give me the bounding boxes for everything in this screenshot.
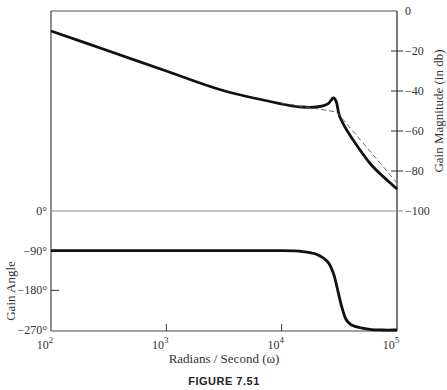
- magnitude-tick-label: −40: [405, 84, 424, 98]
- figure-caption: FIGURE 7.51: [188, 375, 260, 387]
- x-tick-label: 105: [383, 335, 400, 352]
- magnitude-tick-label: −60: [405, 124, 424, 138]
- x-tick-exponent: 4: [279, 335, 284, 345]
- magnitude-tick-label: 0: [405, 4, 411, 18]
- magnitude-tick-label: −80: [405, 164, 424, 178]
- x-tick-exponent: 3: [164, 335, 169, 345]
- tick-labels: 0−20−40−60−80−1000°−90°−180°−270°1021031…: [17, 4, 429, 352]
- tick-marks: [51, 51, 403, 331]
- phase-curve: [51, 251, 397, 330]
- magnitude-asymptote-line: [282, 103, 397, 183]
- x-tick-label: 103: [152, 335, 169, 352]
- y-axis-label-phase: Gain Angle: [3, 261, 18, 321]
- magnitude-tick-label: −20: [405, 44, 424, 58]
- x-tick-label: 102: [37, 335, 54, 352]
- phase-tick-label: −270°: [17, 323, 47, 337]
- phase-tick-label: −90°: [23, 244, 47, 258]
- x-tick-label: 104: [267, 335, 284, 352]
- plot-frame: [51, 11, 397, 331]
- y-axis-label-magnitude: Gain Magnitude (in db): [431, 49, 446, 172]
- x-tick-exponent: 2: [49, 335, 54, 345]
- phase-tick-label: −180°: [17, 283, 47, 297]
- magnitude-tick-label: −100: [405, 204, 430, 218]
- magnitude-curve: [51, 31, 397, 189]
- bode-plot: 0−20−40−60−80−1000°−90°−180°−270°1021031…: [0, 0, 447, 390]
- x-tick-exponent: 5: [395, 335, 400, 345]
- series-group: [51, 31, 397, 330]
- x-axis-label: Radians / Second (ω): [169, 351, 280, 366]
- phase-tick-label: 0°: [36, 204, 47, 218]
